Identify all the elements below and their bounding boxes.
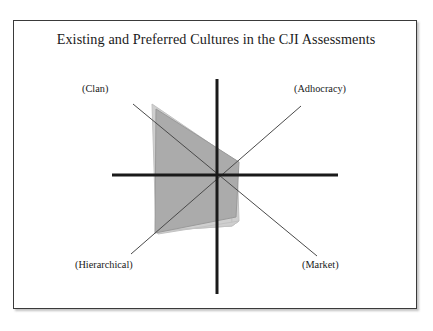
axis-label-clan: (Clan) (82, 83, 108, 94)
figure-frame: Existing and Preferred Cultures in the C… (13, 20, 417, 309)
axis-label-hierarchical: (Hierarchical) (75, 259, 133, 270)
figure-container: Existing and Preferred Cultures in the C… (0, 0, 433, 331)
axis-label-market: (Market) (302, 259, 339, 270)
axis-label-adhocracy: (Adhocracy) (294, 83, 346, 94)
